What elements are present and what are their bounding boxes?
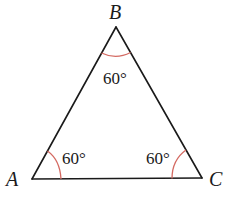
side-ac <box>32 178 202 179</box>
angle-arc-a <box>48 151 62 179</box>
angle-arc-c <box>172 150 186 179</box>
vertex-label-c: C <box>209 168 223 190</box>
vertex-label-a: A <box>4 168 19 190</box>
triangle-diagram: A B C 60° 60° 60° <box>0 0 235 199</box>
angle-label-c: 60° <box>146 149 170 168</box>
angle-arc-b <box>102 53 131 57</box>
angle-label-b: 60° <box>103 69 127 88</box>
angle-label-a: 60° <box>62 149 86 168</box>
vertex-label-b: B <box>109 1 121 23</box>
